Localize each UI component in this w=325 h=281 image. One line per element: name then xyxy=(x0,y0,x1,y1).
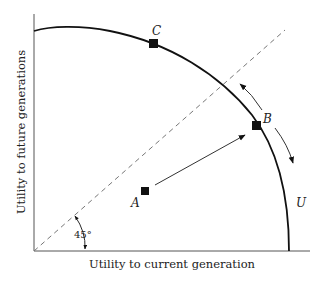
arrow-a-to-b xyxy=(155,135,245,185)
point-c-label: C xyxy=(152,24,161,38)
angle-label: 45° xyxy=(74,229,92,240)
point-a-marker xyxy=(141,187,149,195)
arrow-along-frontier-down xyxy=(275,128,293,163)
point-a-label: A xyxy=(130,196,140,210)
y-axis-label: Utility to future generations xyxy=(14,50,28,214)
point-c-marker xyxy=(149,39,158,48)
point-b-marker xyxy=(252,121,261,130)
curve-u-label: U xyxy=(296,196,307,210)
45-degree-line xyxy=(34,30,285,251)
point-b-label: B xyxy=(262,112,272,126)
utility-possibility-diagram: A B C U 45° Utility to current generatio… xyxy=(0,0,325,281)
x-axis-label: Utility to current generation xyxy=(89,257,256,271)
